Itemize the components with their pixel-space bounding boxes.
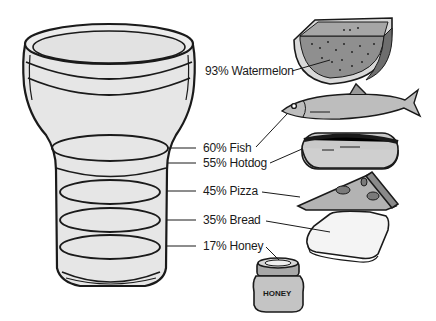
label-watermelon: 93% Watermelon [205,64,294,78]
pizza-slice-icon [262,172,398,210]
watermelon-icon [292,18,392,84]
label-pizza: 45% Pizza [203,184,258,198]
glass-icon [23,24,195,286]
bread-slice-icon [266,211,389,262]
label-hotdog: 55% Hotdog [203,156,267,170]
honey-jar-icon [253,247,303,312]
hotdog-icon [270,133,398,169]
label-fish: 60% Fish [203,141,251,155]
label-bread: 35% Bread [203,213,261,227]
water-content-diagram: 93% Watermelon 60% Fish 55% Hotdog 45% P… [0,0,436,321]
glass-leader-lines [166,148,196,246]
label-honey: 17% Honey [203,239,263,253]
honey-jar-text: HONEY [263,287,291,301]
